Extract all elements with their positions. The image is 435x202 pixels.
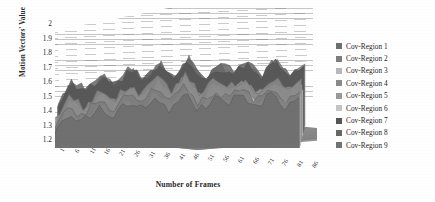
y-tick-label: 1.8 (28, 49, 52, 57)
legend-item[interactable]: Cov-Region 9 (336, 139, 435, 151)
x-tick-label: 56 (221, 154, 230, 163)
x-tick-label: 11 (88, 146, 97, 155)
legend-label: Cov-Region 2 (346, 54, 388, 63)
chart-legend: Cov-Region 1Cov-Region 2Cov-Region 3Cov-… (336, 40, 435, 152)
y-tick-label: 1.7 (28, 64, 52, 72)
y-tick-label: 1.9 (28, 35, 52, 43)
legend-label: Cov-Region 5 (346, 91, 388, 100)
x-tick-label: 61 (236, 155, 245, 164)
x-tick-label: 51 (206, 153, 215, 162)
x-tick-label: 26 (132, 148, 141, 157)
x-tick-label: 21 (117, 148, 126, 157)
legend-label: Cov-Region 7 (346, 116, 388, 125)
x-axis-tick-labels: 1611162126313641465156616671768186 (52, 139, 342, 175)
legend-label: Cov-Region 3 (346, 66, 388, 75)
legend-label: Cov-Region 4 (346, 79, 388, 88)
legend-item[interactable]: Cov-Region 4 (336, 77, 435, 89)
x-tick-label: 76 (280, 158, 289, 167)
data-ribbons (55, 8, 313, 148)
y-tick-label: 1.3 (28, 122, 52, 130)
legend-swatch-icon (336, 118, 342, 124)
y-tick-label: 1.6 (28, 78, 52, 86)
legend-item[interactable]: Cov-Region 6 (336, 102, 435, 114)
legend-item[interactable]: Cov-Region 3 (336, 65, 435, 77)
plot-area (55, 8, 313, 148)
x-tick-label: 66 (251, 156, 260, 165)
legend-item[interactable]: Cov-Region 1 (336, 40, 435, 52)
x-tick-label: 46 (191, 152, 200, 161)
legend-swatch-icon (336, 93, 342, 99)
x-tick-label: 81 (295, 159, 304, 168)
x-tick-label: 71 (266, 157, 275, 166)
y-axis-tick-labels: 21.91.81.71.61.51.41.31.2 (28, 24, 52, 140)
legend-label: Cov-Region 6 (346, 104, 388, 113)
legend-item[interactable]: Cov-Region 2 (336, 52, 435, 64)
legend-label: Cov-Region 8 (346, 128, 388, 137)
x-axis-title: Number of Frames (108, 180, 268, 189)
legend-item[interactable]: Cov-Region 7 (336, 114, 435, 126)
y-tick-label: 2 (28, 20, 52, 28)
y-axis-title: Motion Vectors' Value (19, 0, 27, 92)
y-tick-label: 1.4 (28, 107, 52, 115)
legend-label: Cov-Region 9 (346, 141, 388, 150)
legend-item[interactable]: Cov-Region 8 (336, 127, 435, 139)
x-tick-label: 1 (58, 146, 66, 152)
legend-swatch-icon (336, 43, 342, 49)
x-tick-label: 86 (310, 160, 319, 169)
legend-swatch-icon (336, 142, 342, 148)
legend-swatch-icon (336, 130, 342, 136)
x-tick-label: 6 (73, 147, 81, 153)
legend-swatch-icon (336, 80, 342, 86)
legend-label: Cov-Region 1 (346, 42, 388, 51)
x-tick-label: 41 (177, 151, 186, 160)
legend-item[interactable]: Cov-Region 5 (336, 90, 435, 102)
chart-figure: Motion Vectors' Value 21.91.81.71.61.51.… (0, 0, 435, 202)
x-tick-label: 36 (162, 150, 171, 159)
legend-swatch-icon (336, 56, 342, 62)
legend-swatch-icon (336, 105, 342, 111)
x-tick-label: 31 (147, 149, 156, 158)
y-tick-label: 1.5 (28, 93, 52, 101)
x-tick-label: 16 (102, 147, 111, 156)
legend-swatch-icon (336, 68, 342, 74)
y-tick-label: 1.2 (28, 136, 52, 144)
